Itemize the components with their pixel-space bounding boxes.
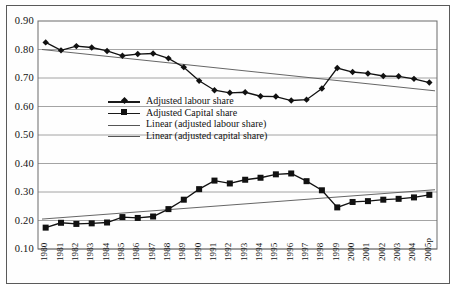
data-point-square	[411, 194, 417, 200]
data-point-square	[304, 178, 310, 184]
data-point-diamond	[73, 43, 79, 49]
data-point-square	[150, 214, 156, 220]
y-tick-label: 0.90	[0, 15, 34, 26]
y-tick-label: 0.40	[0, 158, 34, 169]
x-tick-label: 1990	[193, 243, 203, 261]
x-tick-label: 1980	[39, 243, 49, 261]
data-point-diamond	[426, 79, 432, 85]
data-point-square	[196, 186, 202, 192]
data-point-square	[104, 220, 110, 226]
x-tick-label: 1986	[131, 243, 141, 261]
x-tick-label: 2005p	[423, 238, 433, 261]
data-point-diamond	[365, 70, 371, 76]
data-point-square	[119, 214, 125, 220]
series-line	[46, 42, 430, 100]
data-point-square	[396, 196, 402, 202]
gridlines	[38, 50, 437, 250]
legend-marker-square	[121, 109, 127, 115]
x-tick-label: 1994	[254, 243, 264, 261]
x-tick-label: 1998	[315, 243, 325, 261]
data-point-square	[273, 171, 279, 177]
chart-legend: Adjusted labour shareAdjusted Capital sh…	[108, 96, 304, 142]
data-point-square	[365, 198, 371, 204]
data-point-square	[165, 206, 171, 212]
y-tick-label: 0.30	[0, 186, 34, 197]
x-tick-label: 2004	[407, 243, 417, 261]
y-tick-label: 0.20	[0, 215, 34, 226]
data-point-square	[73, 221, 79, 227]
data-point-diamond	[349, 69, 355, 75]
x-tick-label: 1993	[239, 243, 249, 261]
data-point-square	[43, 225, 49, 231]
data-point-diamond	[211, 87, 217, 93]
series-line	[46, 173, 430, 227]
data-point-square	[288, 170, 294, 176]
x-tick-label: 1999	[331, 243, 341, 261]
y-tick-label: 0.80	[0, 44, 34, 55]
y-tick-label: 0.60	[0, 101, 34, 112]
data-point-diamond	[58, 47, 64, 53]
x-tick-label: 2003	[392, 243, 402, 261]
x-tick-label: 1995	[269, 243, 279, 261]
x-tick-label: 1997	[300, 243, 310, 261]
x-tick-label: 2001	[361, 243, 371, 261]
x-tick-label: 1985	[116, 243, 126, 261]
data-point-diamond	[42, 39, 48, 45]
data-point-diamond	[395, 73, 401, 79]
data-point-square	[181, 197, 187, 203]
legend-item: Linear (adjusted capital share)	[108, 131, 304, 143]
data-point-diamond	[135, 51, 141, 57]
data-point-square	[426, 192, 432, 198]
data-point-square	[380, 197, 386, 203]
data-point-square	[334, 204, 340, 210]
x-tick-label: 1996	[285, 243, 295, 261]
data-point-square	[135, 215, 141, 221]
x-tick-label: 1988	[162, 243, 172, 261]
data-point-square	[258, 175, 264, 181]
legend-swatch	[108, 125, 140, 126]
legend-label: Linear (adjusted capital share)	[146, 130, 267, 141]
data-point-square	[89, 220, 95, 226]
x-tick-label: 1989	[177, 243, 187, 261]
x-tick-label: 1992	[223, 243, 233, 261]
x-tick-label: 1982	[70, 243, 80, 261]
data-point-diamond	[104, 48, 110, 54]
data-point-square	[242, 177, 248, 183]
trendline	[42, 190, 435, 219]
data-point-diamond	[411, 76, 417, 82]
data-point-square	[211, 178, 217, 184]
legend-label: Adjusted labour share	[146, 95, 234, 106]
y-tick-label: 0.70	[0, 72, 34, 83]
legend-label: Linear (adjusted labour share)	[146, 118, 266, 129]
x-tick-label: 1987	[147, 243, 157, 261]
x-tick-label: 1981	[55, 243, 65, 261]
legend-label: Adjusted Capital share	[146, 107, 237, 118]
legend-swatch	[108, 136, 140, 137]
x-tick-label: 2002	[377, 243, 387, 261]
data-point-square	[350, 199, 356, 205]
data-point-diamond	[165, 55, 171, 61]
x-tick-label: 2000	[346, 243, 356, 261]
trendline	[42, 50, 435, 91]
data-point-square	[227, 180, 233, 186]
x-tick-label: 1983	[85, 243, 95, 261]
data-point-diamond	[150, 50, 156, 56]
x-tick-label: 1984	[101, 243, 111, 261]
data-point-square	[58, 220, 64, 226]
legend-marker-diamond	[120, 97, 127, 104]
data-point-diamond	[242, 89, 248, 95]
y-tick-label: 0.10	[0, 243, 34, 254]
y-tick-label: 0.50	[0, 129, 34, 140]
x-tick-label: 1991	[208, 243, 218, 261]
data-point-square	[319, 187, 325, 193]
